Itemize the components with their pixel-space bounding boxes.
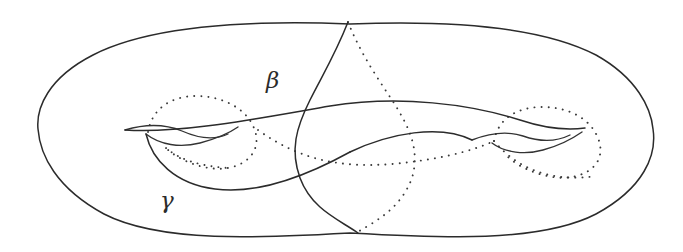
- genus-two-surface-diagram: β γ: [0, 0, 683, 252]
- label-gamma: γ: [160, 187, 174, 213]
- label-beta: β: [265, 67, 279, 93]
- figure-canvas: β γ: [0, 0, 683, 252]
